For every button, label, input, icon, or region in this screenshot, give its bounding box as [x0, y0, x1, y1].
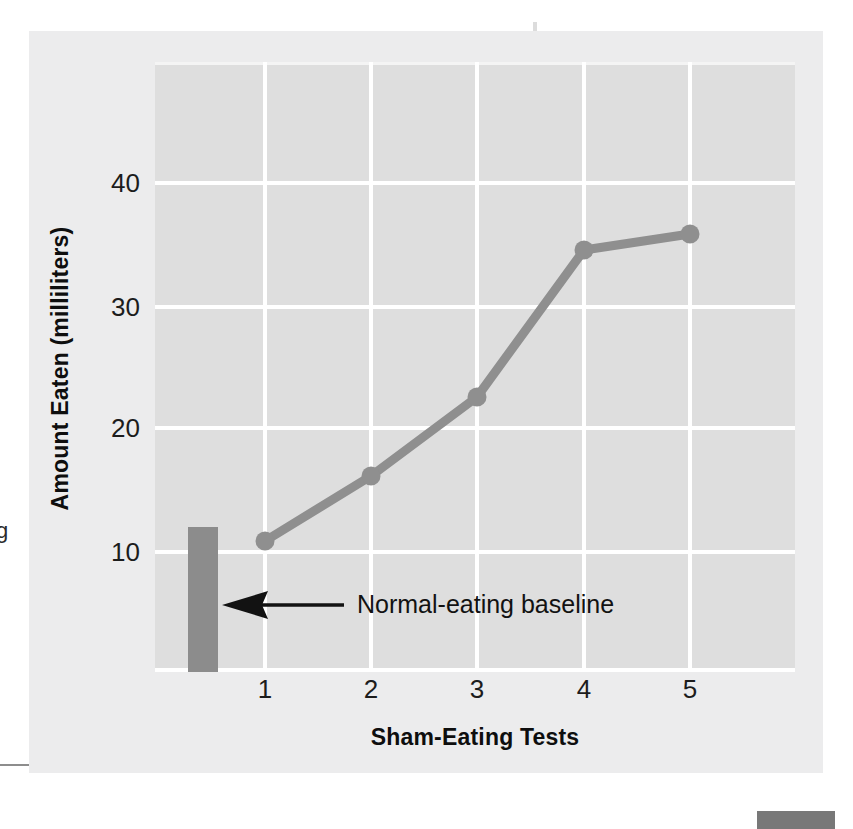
- page-root: g: [0, 0, 853, 829]
- plot-bottom-edge: [155, 668, 795, 672]
- gridline-x-1: [263, 62, 267, 672]
- y-axis-title: Amount Eaten (milliliters): [47, 159, 74, 579]
- gridline-x-3: [475, 62, 479, 672]
- normal-eating-baseline-bar: [188, 527, 218, 672]
- y-tick-30: 30: [111, 294, 140, 320]
- gridline-x-5: [688, 62, 692, 672]
- gridline-x-4: [582, 62, 586, 672]
- y-tick-40: 40: [111, 170, 140, 196]
- line-chart: Normal-eating baseline 40 30 20 10 1 2 3…: [0, 0, 853, 829]
- x-tick-4: 4: [564, 676, 604, 702]
- x-axis-title: Sham-Eating Tests: [155, 724, 795, 751]
- x-tick-3: 3: [457, 676, 497, 702]
- x-tick-1: 1: [245, 676, 285, 702]
- plot-area: [155, 62, 795, 672]
- y-axis-tick-labels: 40 30 20 10: [88, 0, 140, 829]
- annotation-normal-eating-baseline: Normal-eating baseline: [357, 592, 614, 617]
- x-tick-2: 2: [351, 676, 391, 702]
- y-tick-20: 20: [111, 415, 140, 441]
- x-tick-5: 5: [670, 676, 710, 702]
- y-tick-10: 10: [111, 539, 140, 565]
- gridline-x-2: [369, 62, 373, 672]
